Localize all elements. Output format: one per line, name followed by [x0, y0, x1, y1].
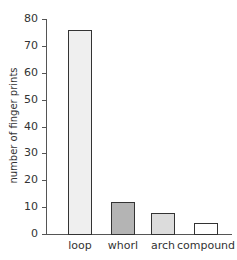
y-tick [42, 73, 46, 74]
bar-arch [151, 213, 175, 236]
y-tick-label: 80 [4, 13, 38, 25]
bar-loop [68, 30, 92, 235]
y-axis [46, 19, 47, 235]
y-tick [42, 180, 46, 181]
y-tick [42, 19, 46, 20]
y-tick [42, 234, 46, 235]
y-tick [42, 46, 46, 47]
y-tick [42, 153, 46, 154]
x-tick-label-compound: compound [176, 239, 236, 252]
y-tick-label: 70 [4, 40, 38, 52]
y-tick-label: 0 [4, 228, 38, 240]
y-tick-label: 60 [4, 67, 38, 79]
y-tick [42, 127, 46, 128]
y-tick-label: 40 [4, 121, 38, 133]
y-tick-label: 20 [4, 174, 38, 186]
y-tick [42, 207, 46, 208]
y-tick-label: 30 [4, 147, 38, 159]
y-tick-label: 10 [4, 201, 38, 213]
bar-whorl [111, 202, 135, 235]
bar-compound [194, 223, 218, 235]
y-tick [42, 100, 46, 101]
y-tick-label: 50 [4, 94, 38, 106]
